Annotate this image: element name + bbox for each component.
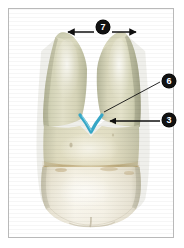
callout-badge-3[interactable]: 3	[162, 113, 176, 127]
callout-badge-7[interactable]: 7	[96, 20, 110, 34]
tooth-illustration	[9, 9, 173, 237]
photo-texture	[9, 9, 173, 237]
callout-badge-6[interactable]: 6	[162, 74, 176, 88]
tooth-specimen-photo	[9, 9, 173, 237]
figure-root: 7 6 3	[0, 0, 184, 248]
